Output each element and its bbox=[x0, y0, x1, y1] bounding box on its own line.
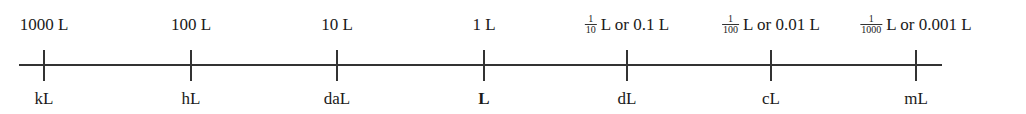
axis-line bbox=[19, 64, 942, 66]
fraction-numerator: 1 bbox=[727, 14, 734, 24]
tick-l bbox=[483, 50, 485, 81]
value-text: L or 0.001 L bbox=[886, 15, 971, 34]
tick-dal bbox=[336, 50, 338, 81]
tick-hl bbox=[190, 50, 192, 81]
unit-label-ml: mL bbox=[904, 88, 928, 110]
unit-label-l: L bbox=[478, 88, 489, 110]
tick-cl bbox=[770, 50, 772, 81]
fraction-denominator: 100 bbox=[722, 24, 739, 35]
value-text: 10 L bbox=[321, 15, 353, 34]
value-text: 100 L bbox=[171, 15, 211, 34]
fraction-denominator: 10 bbox=[585, 24, 597, 35]
tick-kl bbox=[43, 50, 45, 81]
unit-label-kl: kL bbox=[35, 88, 54, 110]
fraction: 1 1000 bbox=[860, 14, 882, 35]
value-text: L or 0.1 L bbox=[601, 15, 669, 34]
value-text: 1000 L bbox=[20, 15, 69, 34]
value-text: L or 0.01 L bbox=[743, 15, 820, 34]
fraction: 1 100 bbox=[722, 14, 739, 35]
value-text: 1 L bbox=[472, 15, 495, 34]
top-label-ml: 1 1000 L or 0.001 L bbox=[860, 14, 971, 37]
unit-label-hl: hL bbox=[182, 88, 201, 110]
tick-ml bbox=[915, 50, 917, 81]
tick-dl bbox=[626, 50, 628, 81]
top-label-l: 1 L bbox=[472, 14, 495, 36]
fraction-numerator: 1 bbox=[587, 14, 594, 24]
top-label-dl: 1 10 L or 0.1 L bbox=[585, 14, 669, 37]
fraction: 1 10 bbox=[585, 14, 597, 35]
unit-label-dal: daL bbox=[324, 88, 350, 110]
top-label-kl: 1000 L bbox=[20, 14, 69, 36]
unit-label-dl: dL bbox=[618, 88, 637, 110]
fraction-denominator: 1000 bbox=[860, 24, 882, 35]
top-label-cl: 1 100 L or 0.01 L bbox=[722, 14, 820, 37]
top-label-hl: 100 L bbox=[171, 14, 211, 36]
fraction-numerator: 1 bbox=[868, 14, 875, 24]
unit-label-cl: cL bbox=[762, 88, 780, 110]
top-label-dal: 10 L bbox=[321, 14, 353, 36]
